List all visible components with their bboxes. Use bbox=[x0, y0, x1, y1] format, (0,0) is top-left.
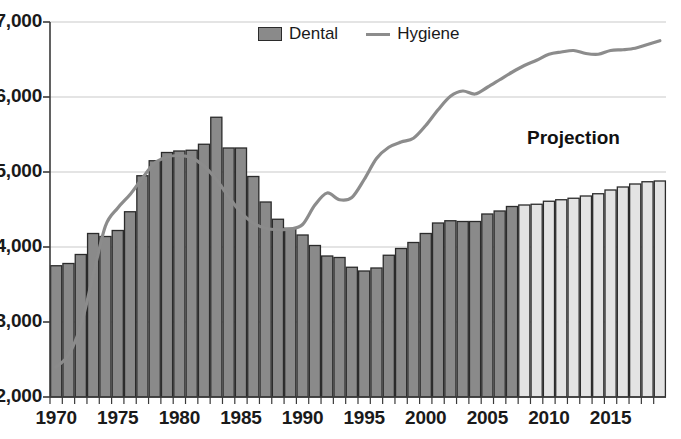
y-tick-label-6000: 6,000 bbox=[0, 85, 42, 107]
x-tick-label-2000: 2000 bbox=[396, 407, 456, 429]
bar-swatch-icon bbox=[258, 27, 282, 41]
x-tick-label-1990: 1990 bbox=[273, 407, 333, 429]
x-tick-label-1995: 1995 bbox=[334, 407, 394, 429]
line-swatch-icon bbox=[366, 33, 390, 36]
legend-item-dental: Dental bbox=[258, 24, 338, 44]
y-tick-label-4000: 4,000 bbox=[0, 235, 42, 257]
y-tick-label-5000: 5,000 bbox=[0, 160, 42, 182]
x-tick-label-2015: 2015 bbox=[581, 407, 641, 429]
legend-label-dental: Dental bbox=[289, 24, 338, 44]
y-tick-label-2000: 2,000 bbox=[0, 385, 42, 407]
chart-legend: Dental Hygiene bbox=[258, 24, 460, 44]
x-tick-label-2010: 2010 bbox=[519, 407, 579, 429]
chart-plot-area bbox=[0, 0, 681, 439]
x-tick-label-1985: 1985 bbox=[211, 407, 271, 429]
bar-series-dental bbox=[51, 117, 666, 397]
y-tick-label-3000: 3,000 bbox=[0, 310, 42, 332]
legend-label-hygiene: Hygiene bbox=[397, 24, 459, 44]
legend-item-hygiene: Hygiene bbox=[366, 24, 459, 44]
chart-container: 2,0003,0004,0005,0006,0007,000 197019751… bbox=[0, 0, 681, 439]
x-tick-label-1975: 1975 bbox=[88, 407, 148, 429]
x-tick-label-1980: 1980 bbox=[149, 407, 209, 429]
x-tick-label-1970: 1970 bbox=[26, 407, 86, 429]
x-tick-label-2005: 2005 bbox=[457, 407, 517, 429]
projection-annotation: Projection bbox=[527, 127, 620, 149]
y-tick-label-7000: 7,000 bbox=[0, 10, 42, 32]
